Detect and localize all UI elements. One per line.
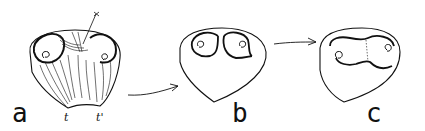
panel-b xyxy=(180,28,266,102)
label-t: t xyxy=(64,111,69,124)
label-b: b xyxy=(232,98,248,128)
figure-canvas: a t t' b c xyxy=(0,0,425,131)
arrow-b-to-c xyxy=(274,38,316,45)
label-c: c xyxy=(366,98,382,128)
label-t-prime: t' xyxy=(96,111,103,124)
arrow-a-to-b xyxy=(128,84,178,95)
label-a: a xyxy=(12,98,28,128)
panel-c xyxy=(320,28,400,102)
panel-a xyxy=(30,12,120,108)
